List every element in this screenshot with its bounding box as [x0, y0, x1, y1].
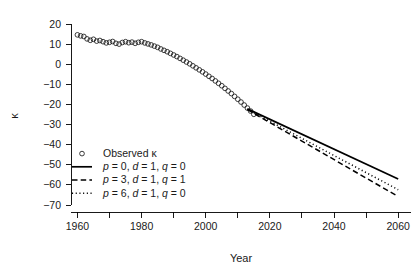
forecast-line-solid [247, 109, 398, 179]
y-axis-tick-label: 0 [55, 58, 61, 70]
forecast-line-dashed [247, 110, 398, 197]
y-axis-tick-label: 20 [49, 18, 61, 30]
y-axis-tick-label: 10 [49, 38, 61, 50]
chart-plot-area: 20100−10−20−30−40−50−60−70 1960198020002… [0, 0, 420, 279]
y-axis-tick-label: −30 [43, 118, 61, 130]
chart-figure: 20100−10−20−30−40−50−60−70 1960198020002… [0, 0, 420, 279]
observed-data-point [223, 86, 228, 91]
legend-entry: p = 0, d = 1, q = 0 [72, 160, 186, 172]
legend-entry: Observed κ [80, 147, 158, 159]
legend-entry: p = 3, d = 1, q = 1 [72, 173, 186, 185]
observed-data-point [226, 89, 231, 94]
x-axis-tick-label: 2040 [322, 220, 346, 232]
x-axis-tick-label: 1980 [130, 220, 154, 232]
observed-data-point [123, 39, 128, 44]
chart-legend: Observed κp = 0, d = 1, q = 0p = 3, d = … [72, 147, 186, 199]
x-axis-tick-label: 2060 [386, 220, 410, 232]
observed-data-point [81, 34, 86, 39]
observed-data-point [75, 33, 80, 38]
legend-label: p = 0, d = 1, q = 0 [102, 160, 186, 172]
observed-data-point [213, 79, 218, 84]
y-axis-ticks: 20100−10−20−30−40−50−60−70 [43, 18, 71, 211]
legend-label: Observed κ [103, 147, 157, 159]
forecast-line-dotted [247, 109, 398, 189]
x-axis-tick-label: 2020 [258, 220, 282, 232]
x-axis-title: Year [230, 252, 253, 264]
legend-label: p = 3, d = 1, q = 1 [102, 173, 186, 185]
y-axis-title: κ [8, 113, 20, 119]
y-axis-tick-label: −10 [43, 78, 61, 90]
observed-data-point [216, 81, 221, 86]
x-axis-tick-label: 1960 [66, 220, 90, 232]
y-axis-tick-label: −20 [43, 98, 61, 110]
observed-data-point [219, 83, 224, 88]
observed-points-group [75, 33, 256, 117]
y-axis-tick-label: −60 [43, 178, 61, 190]
legend-label: p = 6, d = 1, q = 0 [102, 187, 186, 199]
observed-data-point [107, 40, 112, 45]
y-axis-tick-label: −40 [43, 138, 61, 150]
y-axis-tick-label: −70 [43, 199, 61, 211]
observed-data-point [146, 42, 151, 47]
y-axis-tick-label: −50 [43, 158, 61, 170]
x-axis-ticks: 196019802000202020402060 [66, 212, 410, 232]
legend-marker-open-circle [80, 151, 85, 156]
legend-entry: p = 6, d = 1, q = 0 [72, 187, 186, 199]
x-axis-tick-label: 2000 [194, 220, 218, 232]
